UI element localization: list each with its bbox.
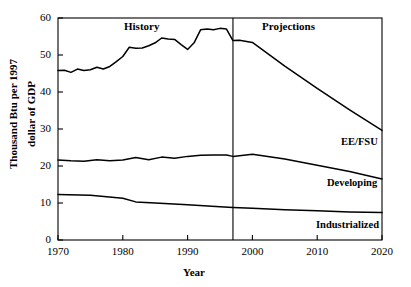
series-label-ee-fsu: EE/FSU	[341, 136, 378, 147]
annotation-history: History	[124, 20, 159, 32]
x-axis-title: Year	[183, 266, 205, 278]
y-tick-label: 60	[25, 11, 51, 23]
series-line-industrialized	[58, 194, 382, 212]
y-tick-label: 50	[25, 48, 51, 60]
x-tick-label: 1990	[168, 245, 208, 257]
x-tick-label: 2010	[297, 245, 337, 257]
series-label-developing: Developing	[327, 177, 377, 188]
series-line-developing	[58, 154, 382, 179]
y-tick-label: 0	[25, 233, 51, 245]
x-tick-label: 1980	[103, 245, 143, 257]
y-tick-label: 10	[25, 196, 51, 208]
series-label-industrialized: Industrialized	[316, 219, 379, 230]
y-axis-title: Thousand Btu per 1997 dollar of GDP	[7, 59, 37, 169]
y-tick-label: 20	[25, 159, 51, 171]
x-tick-label: 1970	[38, 245, 78, 257]
series-line-ee-fsu	[58, 28, 382, 130]
x-tick-label: 2020	[362, 245, 402, 257]
y-tick-label: 30	[25, 122, 51, 134]
x-axis-ticks	[58, 235, 382, 240]
chart-figure: History Projections EE/FSU Developing In…	[0, 0, 411, 287]
y-tick-label: 40	[25, 85, 51, 97]
y-axis-ticks	[58, 18, 63, 240]
annotation-projections: Projections	[262, 20, 315, 32]
x-tick-label: 2000	[232, 245, 272, 257]
